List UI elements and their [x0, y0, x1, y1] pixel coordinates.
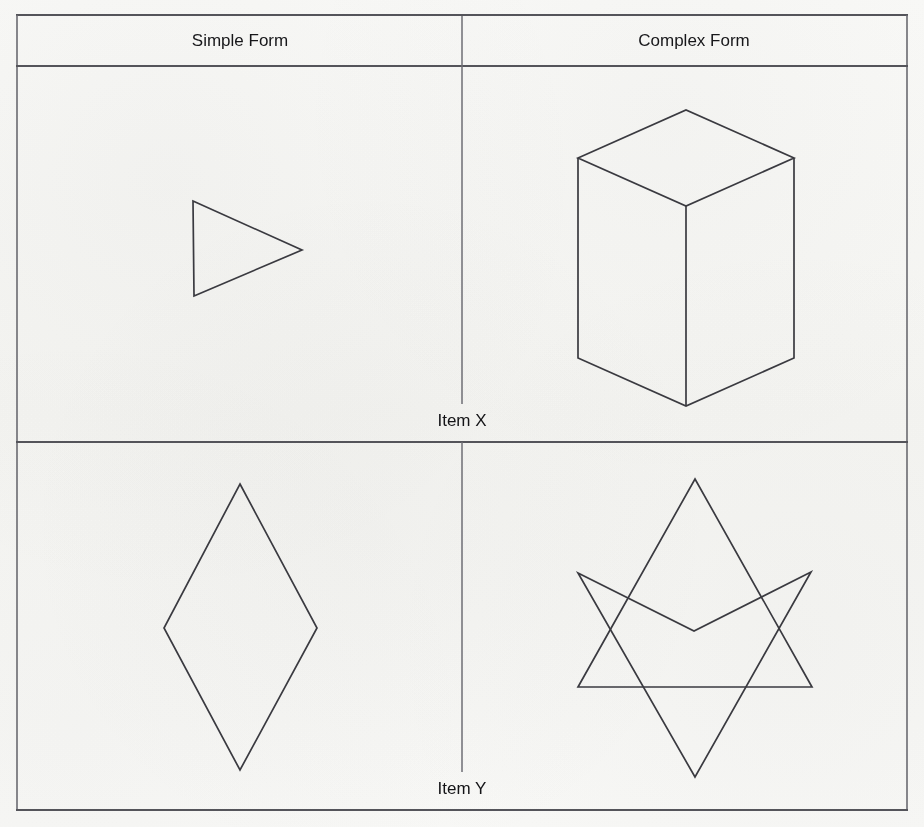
- column-header-simple-form: Simple Form: [192, 31, 288, 50]
- row-label-item-x: Item X: [437, 411, 486, 430]
- rhombus-diamond-icon: [164, 484, 317, 770]
- prism-top-face: [578, 110, 794, 206]
- row-label-item-y: Item Y: [438, 779, 487, 798]
- shape-complex-form-item-x: [578, 110, 794, 406]
- upward-triangle-part: [578, 479, 812, 687]
- concave-arrow-quadrilateral-part: [578, 572, 811, 777]
- right-pointing-triangle-icon: [193, 201, 302, 296]
- shape-complex-form-item-y: [578, 479, 812, 777]
- column-header-complex-form: Complex Form: [638, 31, 749, 50]
- figure-canvas: Simple Form Complex Form Item X Item Y: [0, 0, 924, 827]
- figure-root: Simple Form Complex Form Item X Item Y: [0, 0, 924, 827]
- shape-simple-form-item-x: [193, 201, 302, 296]
- shape-simple-form-item-y: [164, 484, 317, 770]
